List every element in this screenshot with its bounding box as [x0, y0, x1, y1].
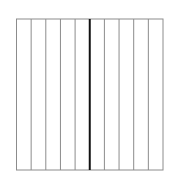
- fraction-strip-diagram: [0, 0, 174, 181]
